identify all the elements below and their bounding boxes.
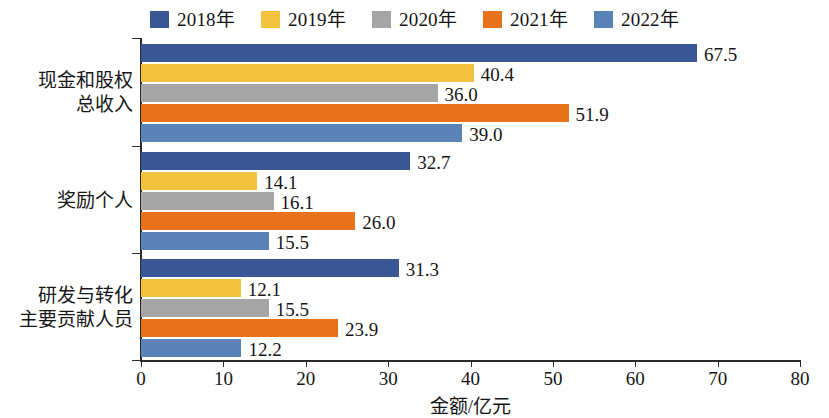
legend-swatch-icon <box>372 11 391 28</box>
y-axis-tick <box>132 146 141 147</box>
x-axis-tick-label: 20 <box>296 369 315 388</box>
bar <box>141 84 438 102</box>
legend-item: 2019年 <box>261 10 346 29</box>
bar <box>141 124 462 142</box>
bar-value-label: 51.9 <box>576 105 609 124</box>
legend-label: 2018年 <box>177 10 235 29</box>
x-axis-tick <box>141 360 142 367</box>
x-axis-tick-label: 60 <box>626 369 645 388</box>
category-label-line: 研发与转化 <box>0 284 133 308</box>
category-label-line: 总收入 <box>0 93 133 117</box>
x-axis-tick <box>553 360 554 367</box>
plot-area: 金额/亿元 67.540.436.051.939.032.714.116.126… <box>141 38 800 360</box>
legend-item: 2020年 <box>372 10 457 29</box>
bar-value-label: 32.7 <box>417 153 450 172</box>
y-axis-tick <box>132 253 141 254</box>
category-axis-labels: 现金和股权总收入奖励个人研发与转化主要贡献人员 <box>0 38 133 360</box>
x-axis-tick-label: 40 <box>461 369 480 388</box>
bar-value-label: 16.1 <box>281 193 314 212</box>
x-axis-tick-label: 0 <box>136 369 146 388</box>
bar-value-label: 12.2 <box>248 340 281 359</box>
bar <box>141 192 274 210</box>
category-label-line: 奖励个人 <box>0 189 133 213</box>
bar-value-label: 26.0 <box>362 213 395 232</box>
y-axis-tick <box>132 38 141 39</box>
x-axis-title: 金额/亿元 <box>141 397 800 417</box>
legend-swatch-icon <box>483 11 502 28</box>
bar <box>141 232 269 250</box>
legend-item: 2022年 <box>594 10 679 29</box>
x-axis-tick <box>718 360 719 367</box>
bar <box>141 64 474 82</box>
bar <box>141 279 241 297</box>
bar <box>141 44 697 62</box>
legend-label: 2020年 <box>399 10 457 29</box>
bar-chart: 2018年2019年2020年2021年2022年 现金和股权总收入奖励个人研发… <box>0 0 829 418</box>
bar-value-label: 36.0 <box>445 85 478 104</box>
bar <box>141 319 338 337</box>
bar <box>141 339 241 357</box>
bar <box>141 259 399 277</box>
legend-swatch-icon <box>594 11 613 28</box>
bar-value-label: 14.1 <box>264 173 297 192</box>
legend-label: 2022年 <box>621 10 679 29</box>
x-axis-tick <box>388 360 389 367</box>
bar-value-label: 39.0 <box>469 125 502 144</box>
bar <box>141 212 355 230</box>
category-label-line: 主要贡献人员 <box>0 308 133 332</box>
x-axis-tick <box>223 360 224 367</box>
legend-label: 2019年 <box>288 10 346 29</box>
category-label: 奖励个人 <box>0 189 133 213</box>
chart-legend: 2018年2019年2020年2021年2022年 <box>0 4 829 34</box>
x-axis-tick-label: 70 <box>708 369 727 388</box>
bar <box>141 299 269 317</box>
x-axis-tick <box>635 360 636 367</box>
x-axis-tick-label: 30 <box>379 369 398 388</box>
x-axis-tick-label: 80 <box>791 369 810 388</box>
legend-label: 2021年 <box>510 10 568 29</box>
bar-value-label: 12.1 <box>248 280 281 299</box>
bar-value-label: 67.5 <box>704 45 737 64</box>
x-axis-tick-label: 10 <box>214 369 233 388</box>
bar <box>141 152 410 170</box>
legend-item: 2021年 <box>483 10 568 29</box>
bar-value-label: 15.5 <box>276 233 309 252</box>
category-label: 现金和股权总收入 <box>0 69 133 117</box>
bar <box>141 172 257 190</box>
x-axis-tick <box>800 360 801 367</box>
x-axis-tick-label: 50 <box>543 369 562 388</box>
category-label: 研发与转化主要贡献人员 <box>0 284 133 332</box>
bar-value-label: 15.5 <box>276 300 309 319</box>
legend-item: 2018年 <box>150 10 235 29</box>
legend-swatch-icon <box>261 11 280 28</box>
legend-swatch-icon <box>150 11 169 28</box>
bar-value-label: 23.9 <box>345 320 378 339</box>
y-axis-tick <box>132 360 141 361</box>
x-axis-tick <box>306 360 307 367</box>
x-axis-tick <box>471 360 472 367</box>
bar <box>141 104 569 122</box>
category-label-line: 现金和股权 <box>0 69 133 93</box>
bar-value-label: 40.4 <box>481 65 514 84</box>
bar-value-label: 31.3 <box>406 260 439 279</box>
